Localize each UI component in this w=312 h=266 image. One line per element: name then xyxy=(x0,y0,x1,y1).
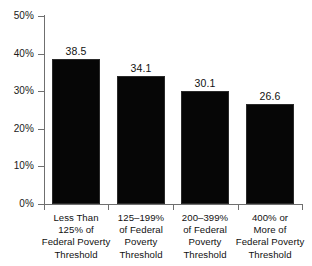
bar-value-label: 30.1 xyxy=(181,77,229,89)
y-axis-tick xyxy=(38,129,44,130)
bar xyxy=(52,59,100,204)
y-axis-tick-label: 30% xyxy=(0,85,34,96)
bar xyxy=(117,76,165,204)
x-axis-line xyxy=(38,204,303,205)
bar xyxy=(246,104,294,204)
bar-value-label: 38.5 xyxy=(52,45,100,57)
x-axis-category-label: 400% or More of Federal Poverty Threshol… xyxy=(230,212,310,261)
y-axis-line xyxy=(44,15,45,205)
bar-value-label: 34.1 xyxy=(117,62,165,74)
bar-value-label: 26.6 xyxy=(246,90,294,102)
y-axis-tick-label: 50% xyxy=(0,10,34,21)
y-axis-tick xyxy=(38,54,44,55)
x-axis-tick xyxy=(302,205,303,210)
y-axis-tick-label: 40% xyxy=(0,48,34,59)
y-axis-tick-label: 20% xyxy=(0,123,34,134)
y-axis-tick xyxy=(38,16,44,17)
y-axis-tick xyxy=(38,166,44,167)
y-axis-tick xyxy=(38,91,44,92)
x-axis-tick xyxy=(44,205,45,210)
y-axis-tick-label: 0% xyxy=(0,198,34,209)
x-axis-tick xyxy=(108,205,109,210)
bar xyxy=(181,91,229,204)
y-axis-tick-label: 10% xyxy=(0,160,34,171)
bar-chart: 50% 40% 30% 20% 10% 0% 38.5 34.1 30.1 26… xyxy=(0,0,312,266)
x-axis-tick xyxy=(173,205,174,210)
x-axis-tick xyxy=(238,205,239,210)
